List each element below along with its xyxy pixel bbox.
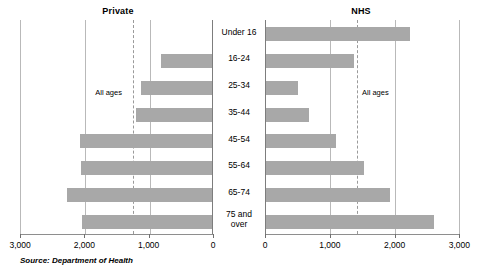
axis-tick-mark (395, 234, 396, 238)
bar-nhs (266, 81, 298, 95)
category-label: Under 16 (213, 28, 265, 38)
value-axis-private (20, 234, 213, 235)
bar-nhs (266, 27, 410, 41)
category-label-line: 35-44 (213, 108, 265, 118)
axis-tick-mark (213, 234, 214, 238)
bar-nhs (266, 54, 354, 68)
bar-nhs (266, 215, 434, 229)
panel-title-private: Private (0, 6, 236, 16)
annotation-all-ages-nhs: All ages (362, 88, 389, 97)
category-label-line: 16-24 (213, 54, 265, 64)
category-label-line: 25-34 (213, 81, 265, 91)
source-note: Source: Department of Health (20, 256, 133, 265)
bar-private (141, 81, 212, 95)
bar-group-private (20, 20, 213, 234)
plot-area-nhs (265, 20, 460, 234)
bar-private (136, 108, 212, 122)
bar-nhs (266, 134, 336, 148)
bar-private (67, 188, 212, 202)
bar-group-nhs (265, 20, 460, 234)
category-label: 25-34 (213, 81, 265, 91)
axis-tick-label: 0 (242, 240, 288, 250)
bar-private (80, 134, 212, 148)
panel-title-nhs: NHS (243, 6, 479, 16)
axis-tick-mark (149, 234, 150, 238)
bar-private (161, 54, 212, 68)
bar-nhs (266, 188, 390, 202)
axis-tick-mark (265, 234, 266, 238)
axis-tick-mark (20, 234, 21, 238)
annotation-all-ages-private: All ages (95, 88, 122, 97)
axis-tick-mark (459, 234, 460, 238)
category-label: 45-54 (213, 135, 265, 145)
category-label-line: 65-74 (213, 188, 265, 198)
category-label: 35-44 (213, 108, 265, 118)
bar-nhs (266, 161, 364, 175)
axis-tick-label: 2,000 (61, 240, 107, 250)
axis-tick-mark (84, 234, 85, 238)
category-label-line: Under 16 (213, 28, 265, 38)
category-label-line: over (213, 220, 265, 230)
category-label: 65-74 (213, 188, 265, 198)
axis-tick-label: 3,000 (0, 240, 43, 250)
plot-area-private (20, 20, 213, 234)
axis-tick-mark (330, 234, 331, 238)
axis-tick-label: 1,000 (126, 240, 172, 250)
value-axis-nhs (265, 234, 460, 235)
figure: Private NHS Under 1616-2425-3435-4445-54… (0, 0, 479, 273)
bar-private (81, 161, 212, 175)
category-label-line: 55-64 (213, 161, 265, 171)
axis-tick-label: 3,000 (436, 240, 479, 250)
bar-private (82, 215, 212, 229)
bar-nhs (266, 108, 309, 122)
category-label: 55-64 (213, 161, 265, 171)
category-label: 75 andover (213, 210, 265, 229)
axis-tick-label: 0 (190, 240, 236, 250)
axis-tick-label: 1,000 (307, 240, 353, 250)
axis-tick-label: 2,000 (372, 240, 418, 250)
category-label: 16-24 (213, 54, 265, 64)
category-label-line: 45-54 (213, 135, 265, 145)
